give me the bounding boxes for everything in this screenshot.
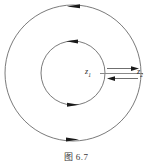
figure-diagram [0,0,152,150]
figure-container: z1 z2 图 6.7 [0,0,152,165]
cut-arrow-leftward-head [107,76,115,81]
figure-caption: 图 6.7 [0,151,152,163]
point-label-z1: z1 [85,68,91,76]
inner-circle-top-arrowhead [66,40,78,44]
point-label-z2-subscript: 2 [140,72,143,78]
point-label-z2: z2 [137,68,143,76]
point-label-z1-subscript: 1 [88,72,91,78]
inner-circle [41,41,105,105]
inner-circle-bottom-arrowhead [67,103,79,107]
